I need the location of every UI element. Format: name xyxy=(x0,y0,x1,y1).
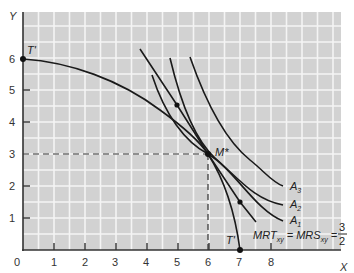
y-axis-title: Y xyxy=(9,10,17,22)
x-axis-title: X xyxy=(339,261,348,273)
svg-text:6: 6 xyxy=(9,53,15,65)
svg-text:1: 1 xyxy=(51,256,57,268)
svg-text:5: 5 xyxy=(174,256,180,268)
point-T-prime xyxy=(237,247,243,253)
svg-text:2: 2 xyxy=(9,180,15,192)
svg-text:5: 5 xyxy=(9,84,15,96)
svg-text:0: 0 xyxy=(14,256,20,268)
fraction-denominator: 2 xyxy=(339,235,345,247)
label-T-top: T' xyxy=(27,44,37,56)
svg-text:4: 4 xyxy=(143,256,149,268)
x-tick-labels: 0 1 2 3 4 5 6 7 8 xyxy=(14,256,274,268)
point-T xyxy=(20,56,26,62)
svg-text:3: 3 xyxy=(9,148,15,160)
label-M-star: M* xyxy=(215,146,229,158)
point-tangent-upper xyxy=(174,102,179,107)
svg-text:8: 8 xyxy=(268,256,274,268)
svg-text:4: 4 xyxy=(9,116,15,128)
svg-text:2: 2 xyxy=(82,256,88,268)
fraction-numerator: 3 xyxy=(339,221,345,233)
point-M-star xyxy=(205,151,211,157)
y-tick-labels: 6 5 4 3 2 1 xyxy=(9,53,15,224)
point-tangent-lower xyxy=(237,199,242,204)
svg-text:3: 3 xyxy=(112,256,118,268)
label-T-bottom: T' xyxy=(226,234,236,246)
svg-text:1: 1 xyxy=(9,212,15,224)
svg-text:6: 6 xyxy=(205,256,211,268)
chart: 0 1 2 3 4 5 6 7 8 6 5 4 3 2 1 Y X T' T' … xyxy=(0,0,354,273)
svg-text:7: 7 xyxy=(236,256,242,268)
